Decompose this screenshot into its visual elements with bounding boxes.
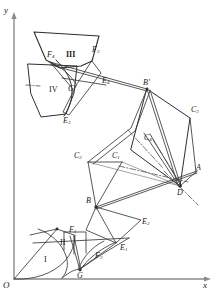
point-label-E4: E4: [102, 77, 109, 85]
point-label-D: D: [177, 189, 183, 197]
point-label-C4-sub: 4: [149, 137, 151, 142]
region-label-II: II: [60, 239, 65, 247]
point-label-E4-sub: 4: [107, 80, 109, 85]
point-label-Gprime: G′: [68, 85, 76, 93]
geometry-group: [14, 32, 198, 279]
region-label-III: III: [66, 51, 75, 59]
link-F4-Bprime: [50, 62, 147, 89]
y-axis-arrowhead: [11, 12, 16, 19]
point-label-C3: C3: [191, 106, 199, 114]
point-label-E2: E2: [142, 218, 149, 226]
point-label-Bprime: B′: [143, 79, 150, 87]
link-C1-B: [96, 162, 122, 207]
point-label-E1: E1: [120, 244, 127, 252]
quad-Bprime-C3-D: [131, 89, 190, 186]
point-label-F1-sub: 1: [74, 229, 76, 234]
point-label-F4-sub: 4: [52, 54, 54, 59]
figure-canvas: y x O I II III IV A B B′ C1 C2 C3 C4 D E…: [0, 0, 221, 299]
point-label-F1: F1: [69, 226, 76, 234]
point-label-G: G: [77, 272, 83, 280]
point-label-A: A: [196, 164, 201, 172]
fan-B-lower: [86, 207, 116, 243]
point-label-E3: E3: [63, 117, 70, 125]
point-label-F2: F2: [95, 252, 102, 260]
node-Bprime: [146, 88, 149, 91]
y-axis-label: y: [4, 6, 8, 15]
node-II-apex: [56, 228, 59, 231]
point-label-B: B: [86, 197, 91, 205]
point-label-C1: C1: [112, 152, 120, 160]
point-label-C1-sub: 1: [117, 155, 119, 160]
link-F4-Bprime-2: [51, 65, 147, 91]
point-label-F2-sub: 2: [100, 255, 102, 260]
diagram-svg: [0, 0, 221, 299]
point-label-F4: F4: [47, 51, 54, 59]
origin-label: O: [3, 281, 10, 290]
region-label-IV: IV: [49, 86, 57, 94]
x-axis-label: x: [203, 281, 207, 290]
point-label-C4: C4: [144, 134, 152, 142]
node-B: [94, 205, 97, 208]
prime-mark-B: ′: [148, 78, 150, 87]
point-label-E1-sub: 1: [125, 247, 127, 252]
region-IV-centerline: [26, 85, 40, 86]
link-Bprime-D-b: [150, 90, 181, 186]
point-label-C2-sub: 2: [79, 155, 81, 160]
point-label-F3-sub: 3: [97, 49, 99, 54]
region-label-I: I: [44, 256, 47, 264]
point-label-E2-sub: 2: [147, 221, 149, 226]
point-label-E3-sub: 3: [68, 120, 70, 125]
point-label-F3: F3: [92, 46, 99, 54]
point-label-C2: C2: [74, 152, 82, 160]
point-label-C3-sub: 3: [196, 109, 198, 114]
prime-mark-G: ′: [74, 84, 76, 93]
